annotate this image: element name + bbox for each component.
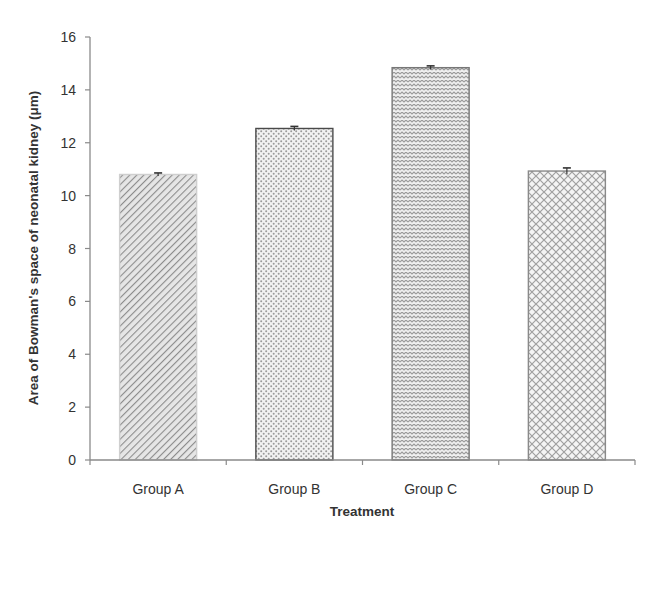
bar-group-a bbox=[120, 174, 197, 460]
y-tick-label: 8 bbox=[68, 241, 76, 257]
y-tick-label: 10 bbox=[60, 188, 76, 204]
bar-group-b bbox=[256, 128, 333, 460]
x-tick-label: Group A bbox=[132, 481, 184, 497]
y-tick-label: 2 bbox=[68, 399, 76, 415]
bar-group-c bbox=[392, 68, 469, 460]
x-tick-label: Group D bbox=[540, 481, 593, 497]
bars bbox=[120, 66, 606, 460]
x-tick-label: Group B bbox=[268, 481, 320, 497]
bar-group-d bbox=[528, 171, 605, 460]
y-tick-label: 14 bbox=[60, 82, 76, 98]
y-tick-label: 4 bbox=[68, 346, 76, 362]
x-axis-title: Treatment bbox=[330, 504, 395, 519]
y-tick-label: 12 bbox=[60, 135, 76, 151]
x-tick-label: Group C bbox=[404, 481, 457, 497]
y-tick-label: 0 bbox=[68, 452, 76, 468]
y-tick-label: 6 bbox=[68, 293, 76, 309]
y-tick-label: 16 bbox=[60, 29, 76, 45]
bar-chart: 0246810121416 Group AGroup BGroup CGroup… bbox=[0, 0, 649, 616]
x-axis-ticks: Group AGroup BGroup CGroup D bbox=[90, 460, 635, 497]
y-axis-ticks: 0246810121416 bbox=[60, 29, 90, 468]
y-axis-title: Area of Bowman's space of neonatal kidne… bbox=[26, 91, 41, 406]
